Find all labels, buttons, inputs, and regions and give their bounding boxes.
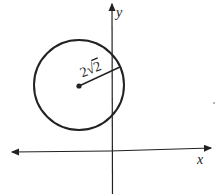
y-axis [112, 4, 113, 194]
center-point [76, 83, 81, 88]
y-axis-label: y [114, 5, 123, 20]
coordinate-plane: 2√2 y x [0, 0, 216, 194]
diagram-canvas: 2√2 y x [0, 0, 216, 194]
x-axis [110, 148, 211, 151]
x-axis-label: x [196, 152, 204, 167]
x-axis-negative [12, 151, 110, 152]
stray-dot [213, 102, 215, 104]
